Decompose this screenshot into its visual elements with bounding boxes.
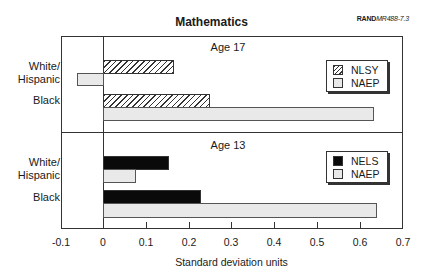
ref-number: MR488-7.3 (376, 15, 409, 22)
x-tick-label: -0.1 (41, 236, 81, 248)
gray-swatch-icon (333, 78, 343, 88)
legend-label: NLSY (351, 64, 378, 76)
x-tick (146, 222, 147, 229)
x-tick-label: 0.6 (340, 236, 380, 248)
legend-label: NELS (351, 155, 378, 167)
x-tick-label: 0.2 (169, 236, 209, 248)
hatch-swatch-icon (333, 65, 343, 75)
bar-nlsy-white-hispanic (103, 60, 174, 74)
category-label-white-hispanic-13: White/Hispanic (0, 156, 60, 182)
legend-label: NAEP (351, 168, 380, 180)
gray-swatch-icon (333, 169, 343, 179)
legend-item-naep: NAEP (333, 168, 380, 180)
bar-nels-white-hispanic (103, 156, 169, 170)
bar-nlsy-black (103, 94, 210, 108)
legend-item-nlsy: NLSY (333, 64, 378, 76)
legend-age13: NELS NAEP (326, 151, 388, 183)
panel-divider (61, 132, 403, 133)
panel-label-age17: Age 17 (178, 41, 278, 53)
legend-label: NAEP (351, 77, 380, 89)
bar-naep17-white-hispanic (77, 73, 104, 86)
x-tick (189, 222, 190, 229)
category-label-black-17: Black (0, 94, 60, 107)
bar-nels-black (103, 190, 201, 204)
x-axis-label: Standard deviation units (0, 256, 423, 268)
black-swatch-icon (333, 156, 343, 166)
legend-item-naep: NAEP (333, 77, 380, 89)
bar-naep13-white-hispanic (103, 169, 136, 183)
ref-prefix: RAND (357, 15, 376, 22)
figure-reference: RANDMR488-7.3 (357, 15, 409, 22)
category-label-black-13: Black (0, 191, 60, 204)
legend-item-nels: NELS (333, 155, 378, 167)
x-tick (360, 222, 361, 229)
x-tick (317, 222, 318, 229)
x-tick-label: 0.5 (297, 236, 337, 248)
bar-naep17-black (103, 107, 374, 121)
x-tick-label: 0.3 (211, 236, 251, 248)
x-tick-label: 0.7 (383, 236, 423, 248)
x-tick-label: 0.4 (254, 236, 294, 248)
x-tick (231, 222, 232, 229)
panel-label-age13: Age 13 (178, 139, 278, 151)
bar-naep13-black (103, 203, 377, 218)
x-tick-label: 0 (83, 236, 123, 248)
x-tick-label: 0.1 (126, 236, 166, 248)
legend-age17: NLSY NAEP (326, 60, 388, 92)
category-label-white-hispanic-17: White/Hispanic (0, 60, 60, 86)
x-tick (274, 222, 275, 229)
